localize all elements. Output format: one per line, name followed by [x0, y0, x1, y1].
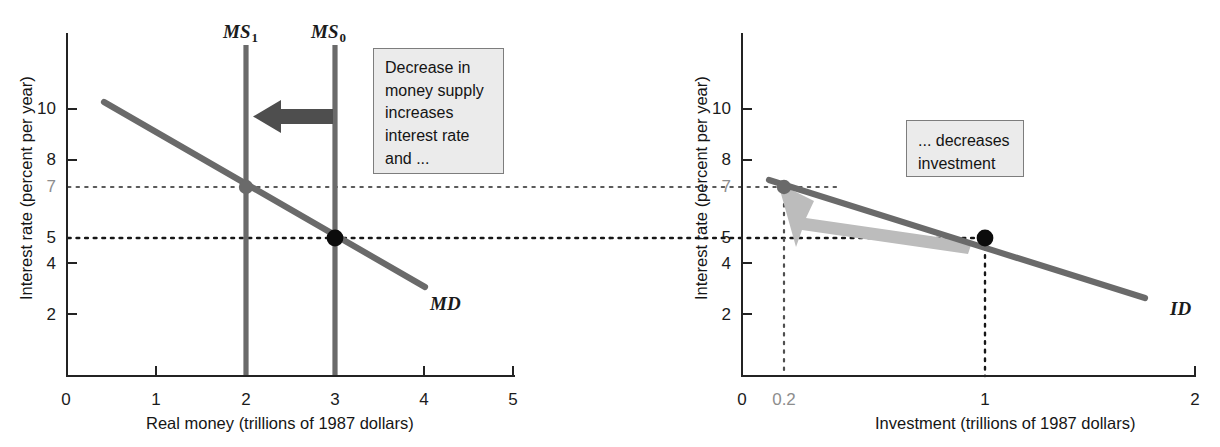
callout-investment: ... decreases investment: [906, 120, 1024, 177]
callout-line-5: and ...: [385, 148, 493, 171]
money-market-plot: [0, 0, 610, 447]
economics-figure: 10 8 7 5 4 2 0 1 2 3 4 5 Interest rate (…: [0, 0, 1220, 447]
y-tick-8: [743, 159, 752, 161]
callout-line-1: ... decreases: [918, 129, 1013, 152]
y-tick-4: [68, 262, 77, 264]
x-tick-label-1: 1: [140, 391, 172, 408]
investment-dot-new: [777, 180, 791, 194]
y-axis-line-right: [741, 33, 743, 377]
y-tick-4: [743, 262, 752, 264]
y-tick-2: [743, 313, 752, 315]
x-tick-label-5: 5: [497, 391, 529, 408]
label-ms0-subscript: 0: [339, 30, 346, 45]
x-tick-label-0-2: 0.2: [762, 391, 806, 408]
label-ms1-text: MS: [223, 21, 250, 42]
label-md: MD: [430, 294, 461, 313]
y-tick-2: [68, 313, 77, 315]
x-tick-2: [1194, 366, 1196, 375]
y-tick-10: [68, 108, 77, 110]
investment-dot-original: [977, 230, 994, 247]
x-tick-label-3: 3: [319, 391, 351, 408]
callout-money-supply: Decrease in money supply increases inter…: [373, 48, 504, 174]
x-axis-title-left: Real money (trillions of 1987 dollars): [146, 415, 414, 432]
panel-money-market: 10 8 7 5 4 2 0 1 2 3 4 5 Interest rate (…: [0, 0, 610, 447]
x-tick-1: [155, 366, 157, 375]
y-tick-8: [68, 159, 77, 161]
y-axis-title-right: Interest rate (percent per year): [693, 76, 710, 300]
callout-line-2: investment: [918, 152, 1013, 175]
callout-line-4: interest rate: [385, 125, 493, 148]
shift-arrow-left: [253, 100, 333, 133]
label-id: ID: [1170, 299, 1191, 318]
y-axis-line-left: [66, 33, 68, 377]
callout-line-1: Decrease in: [385, 57, 493, 80]
y-axis-title-left: Interest rate (percent per year): [18, 76, 35, 300]
x-axis-line-right: [741, 375, 1196, 377]
x-tick-4: [423, 366, 425, 375]
x-tick-label-0: 0: [50, 391, 82, 408]
x-tick-label-4: 4: [408, 391, 440, 408]
x-tick-5: [512, 366, 514, 375]
x-tick-label-2: 2: [230, 391, 262, 408]
panel-investment-demand: 10 8 7 5 4 2 0 0.2 1 2 Interest rate (pe…: [610, 0, 1220, 447]
label-ms0: MS0: [311, 22, 345, 41]
equilibrium-dot-original: [327, 230, 344, 247]
x-tick-label-1: 1: [969, 391, 1001, 408]
callout-line-3: increases: [385, 102, 493, 125]
x-tick-label-2: 2: [1179, 391, 1211, 408]
y-tick-10: [743, 108, 752, 110]
label-ms1-subscript: 1: [251, 30, 258, 45]
y-tick-label-2: 2: [697, 306, 731, 323]
y-tick-label-2: 2: [22, 306, 56, 323]
x-axis-title-right: Investment (trillions of 1987 dollars): [875, 415, 1135, 432]
label-ms1: MS1: [223, 22, 257, 41]
x-tick-label-0: 0: [726, 391, 758, 408]
equilibrium-dot-new: [239, 180, 253, 194]
label-ms0-text: MS: [311, 21, 338, 42]
x-axis-line-left: [66, 375, 515, 377]
callout-line-2: money supply: [385, 80, 493, 103]
